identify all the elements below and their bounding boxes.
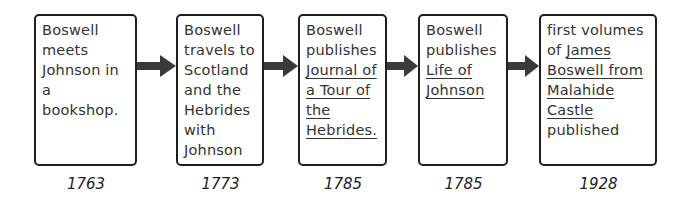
text-span: published: [547, 122, 619, 138]
event-box-1928: first volumes of James Boswell from Mala…: [539, 14, 657, 166]
event-box-1763: Boswell meets Johnson in a bookshop.: [34, 14, 137, 166]
year-label: 1763: [34, 175, 138, 193]
year-label: 1773: [176, 175, 265, 193]
event-text: Boswell publishes Life of Johnson: [426, 20, 503, 100]
event-text: first volumes of James Boswell from Mala…: [547, 20, 652, 140]
event-text: Boswell meets Johnson in a bookshop.: [42, 20, 132, 120]
event-text: Boswell publishes Journal of a Tour of t…: [306, 20, 382, 140]
text-span: Boswell meets Johnson in a bookshop.: [42, 22, 119, 118]
year-label: 1928: [539, 175, 658, 193]
year-label: 1785: [418, 175, 509, 193]
event-box-1773: Boswell travels to Scotland and the Hebr…: [176, 14, 264, 166]
event-box-1785-journal: Boswell publishes Journal of a Tour of t…: [298, 14, 387, 166]
arrow-icon: [387, 55, 419, 77]
text-span: Boswell publishes: [426, 22, 497, 58]
arrow-icon: [137, 55, 177, 77]
text-span: Boswell travels to Scotland and the Hebr…: [184, 22, 255, 158]
event-box-1785-life: Boswell publishes Life of Johnson: [418, 14, 508, 166]
year-label: 1785: [298, 175, 388, 193]
title-text: Life of Johnson: [426, 62, 485, 98]
arrow-icon: [508, 55, 540, 77]
text-span: Boswell publishes: [306, 22, 377, 58]
event-text: Boswell travels to Scotland and the Hebr…: [184, 20, 259, 160]
title-text: Journal of a Tour of the Hebrides.: [306, 62, 377, 138]
arrow-icon: [264, 55, 299, 77]
